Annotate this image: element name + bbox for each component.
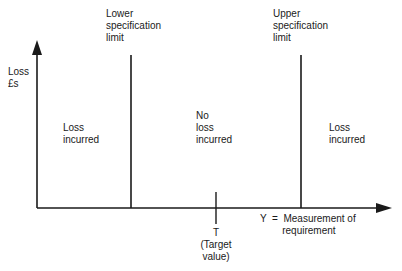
y-axis-arrow-icon xyxy=(32,40,42,55)
region-left-label: Loss incurred xyxy=(63,122,99,146)
y-axis-label: Loss £s xyxy=(8,66,29,90)
lower-spec-limit-label: Lower specification limit xyxy=(106,8,161,44)
target-label: T (Target value) xyxy=(193,227,239,263)
upper-spec-limit-label: Upper specification limit xyxy=(273,8,328,44)
x-axis-label: Y = Measurement of requirement xyxy=(260,213,356,237)
x-axis-arrow-icon xyxy=(376,203,392,213)
region-center-label: No loss incurred xyxy=(196,110,232,146)
region-right-label: Loss incurred xyxy=(329,122,365,146)
